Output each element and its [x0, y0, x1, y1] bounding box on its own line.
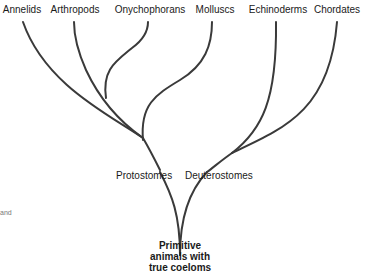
leaf-label-onychophorans: Onychophorans — [115, 4, 186, 16]
root-label: Primitive animals with true coeloms — [149, 240, 211, 273]
root-label-line-1: Primitive — [149, 240, 211, 251]
branch-arthropods — [74, 22, 143, 138]
margin-text-fragment: and — [0, 209, 12, 217]
leaf-label-echinoderms: Echinoderms — [249, 4, 307, 16]
leaf-label-chordates: Chordates — [314, 4, 360, 16]
branch-chordates — [232, 22, 337, 153]
leaf-label-annelids: Annelids — [3, 4, 41, 16]
branch-echinoderms — [232, 22, 276, 153]
branch-molluscs — [143, 22, 212, 140]
branch-protostome-stem — [143, 138, 160, 170]
leaf-label-arthropods: Arthropods — [51, 4, 100, 16]
branch-onychophorans — [105, 22, 148, 98]
root-label-line-3: true coeloms — [149, 262, 211, 273]
root-label-line-2: animals with — [149, 251, 211, 262]
tree-branches — [0, 0, 365, 276]
group-label-protostomes: Protostomes — [116, 170, 172, 182]
group-label-deuterostomes: Deuterostomes — [185, 170, 253, 182]
branch-annelids — [23, 22, 143, 138]
leaf-label-molluscs: Molluscs — [196, 4, 235, 16]
